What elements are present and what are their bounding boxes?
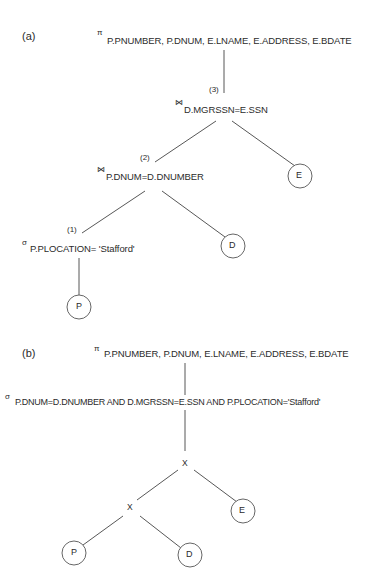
join-symbol-3: ⋈: [175, 99, 183, 107]
select-condition-1: P.PLOCATION= 'Stafford': [30, 244, 135, 254]
query-tree-figure: (a) π P.PNUMBER, P.DNUM, E.LNAME, E.ADDR…: [0, 0, 366, 578]
projection-symbol-b: π: [94, 345, 100, 353]
edge-join2-to-d: [162, 191, 225, 237]
part-b-label: (b): [22, 348, 35, 359]
edge-cross-top-to-cross-bottom: [137, 470, 178, 500]
part-a-label: (a): [22, 31, 35, 42]
projection-attributes-a: P.PNUMBER, P.DNUM, E.LNAME, E.ADDRESS, E…: [107, 36, 352, 46]
join-condition-2: P.DNUM=D.DNUMBER: [106, 172, 204, 182]
tree-edges: [0, 0, 366, 578]
selection-condition-b: P.DNUM=D.DNUMBER AND D.MGRSSN=E.SSN AND …: [15, 398, 320, 407]
relation-label-d-b: D: [186, 550, 193, 559]
edge-cross-bottom-to-d: [140, 516, 181, 548]
relation-label-e-b: E: [239, 506, 245, 515]
select-symbol-1: σ: [22, 239, 27, 247]
edge-join2-to-select1: [82, 191, 145, 233]
selection-symbol-b: σ: [5, 393, 10, 401]
edge-cross-bottom-to-p: [83, 516, 123, 545]
edge-join3-to-e: [232, 121, 295, 166]
relation-label-d-a: D: [229, 241, 236, 250]
projection-attributes-b: P.PNUMBER, P.DNUM, E.LNAME, E.ADDRESS, E…: [104, 349, 349, 359]
cross-product-bottom: X: [127, 503, 133, 512]
edge-cross-top-to-e: [194, 470, 237, 502]
join-symbol-2: ⋈: [97, 166, 105, 174]
projection-symbol-a: π: [97, 29, 103, 37]
step-label-2: (2): [140, 154, 150, 162]
relation-label-e-a: E: [296, 171, 302, 180]
relation-label-p-a: P: [76, 302, 82, 311]
relation-label-p-b: P: [71, 548, 77, 557]
edge-join3-to-join2: [155, 121, 216, 162]
step-label-3: (3): [209, 86, 219, 94]
step-label-1: (1): [67, 226, 77, 234]
join-condition-3: D.MGRSSN=E.SSN: [184, 105, 268, 115]
cross-product-top: X: [182, 459, 188, 468]
